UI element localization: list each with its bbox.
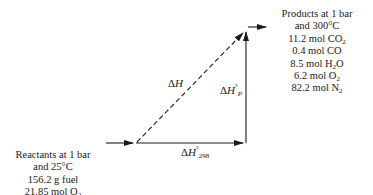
subscript: P bbox=[238, 90, 242, 98]
h-symbol: H bbox=[227, 84, 235, 96]
h-symbol: H bbox=[188, 146, 196, 158]
delta-h-label: ΔH bbox=[168, 77, 183, 89]
delta-hp-label: ΔH°P bbox=[220, 84, 242, 96]
h-symbol: H bbox=[175, 77, 183, 89]
diagram-arrows bbox=[0, 0, 373, 195]
delta-h298-label: ΔH°298 bbox=[181, 146, 209, 158]
subscript: 298 bbox=[199, 152, 210, 160]
